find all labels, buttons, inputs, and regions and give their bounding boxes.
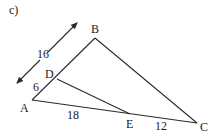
part-label: c) [9,3,18,17]
dimension-arrow-up [47,23,77,53]
length-label-ab: 16 [37,47,49,61]
vertex-label-d: D [45,67,54,81]
vertex-label-b: B [91,22,99,36]
segment-ac [32,100,197,123]
similar-triangles-diagram: c) 16 A B C D E 6 18 12 [0,0,216,137]
vertex-label-c: C [200,120,208,134]
vertex-label-e: E [126,117,133,131]
length-label-ad: 6 [33,80,39,94]
length-label-ec: 12 [155,119,167,133]
length-label-ae: 18 [67,108,79,122]
segment-bc [95,38,197,123]
vertex-label-a: A [20,101,29,115]
